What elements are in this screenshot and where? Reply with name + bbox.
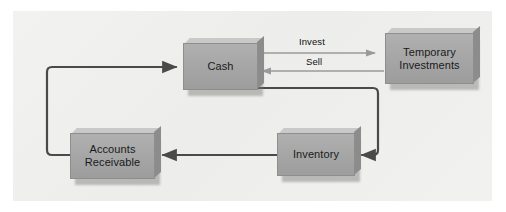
accounts-receivable-face: Accounts Receivable: [70, 133, 155, 179]
node-inventory[interactable]: Inventory: [277, 133, 355, 176]
node-temporary-investments[interactable]: Temporary Investments: [385, 33, 474, 84]
node-accounts-receivable[interactable]: Accounts Receivable: [70, 133, 155, 179]
node-label-cash: Cash: [207, 60, 233, 73]
temporary-investments-side-bevel: [473, 26, 480, 83]
accounts-receivable-side-bevel: [154, 126, 161, 178]
inventory-face: Inventory: [277, 133, 355, 176]
edge-label-invest: Invest: [299, 36, 325, 47]
node-label-accounts-receivable: Accounts Receivable: [85, 143, 140, 169]
cash-cycle-diagram: Cash Temporary Investments Inventory Acc…: [0, 0, 506, 212]
node-label-inventory: Inventory: [293, 148, 339, 161]
cash-face: Cash: [183, 43, 258, 90]
node-label-temporary-investments: Temporary Investments: [399, 46, 459, 72]
inventory-side-bevel: [354, 126, 361, 175]
cash-side-bevel: [257, 36, 264, 89]
edge-label-sell: Sell: [306, 56, 322, 67]
node-cash[interactable]: Cash: [183, 43, 258, 90]
temporary-investments-face: Temporary Investments: [385, 33, 474, 84]
